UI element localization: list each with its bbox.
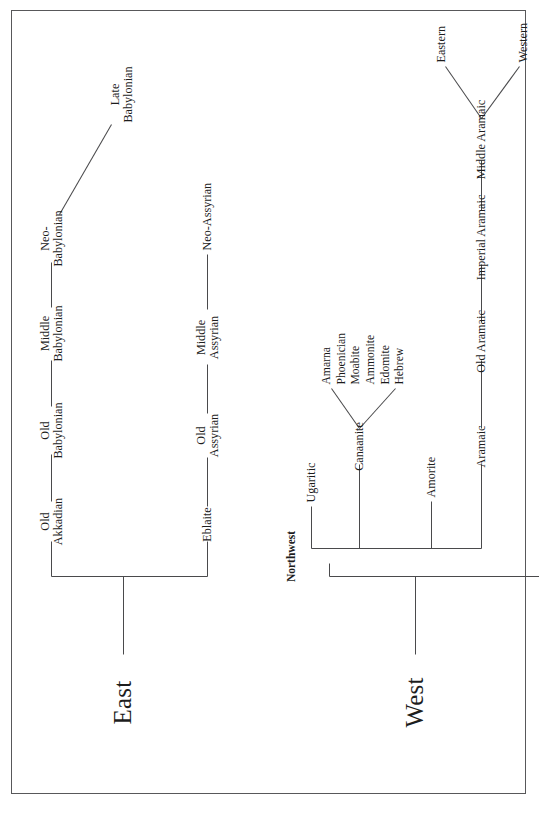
- node-middle-babylonian: Middle Babylonian: [38, 305, 64, 361]
- node-neo-assyrian: Neo-Assyrian: [201, 182, 214, 250]
- figure-page: East Old Akkadian Old Babylonian Middle …: [0, 0, 539, 823]
- node-old-aramaic: Old Aramaic: [475, 310, 488, 373]
- node-aramaic: Aramaic: [475, 425, 488, 467]
- node-ugaritic: Ugaritic: [305, 462, 318, 502]
- canaanite-member-list: Amarna Phoenician Moabite Ammonite Edomi…: [319, 332, 407, 384]
- language-tree-diagram: East Old Akkadian Old Babylonian Middle …: [11, 10, 526, 794]
- node-northwest: Northwest: [285, 530, 297, 581]
- node-western-aramaic: Western: [517, 22, 530, 62]
- node-old-akkadian: Old Akkadian: [38, 497, 64, 544]
- tree-connectors: [11, 10, 526, 794]
- node-middle-assyrian: Middle Assyrian: [194, 315, 220, 358]
- node-old-babylonian: Old Babylonian: [38, 402, 64, 458]
- node-middle-aramaic: Middle Aramaic: [475, 99, 488, 179]
- node-imperial-aramaic: Imperial Aramaic: [475, 194, 488, 280]
- node-amorite: Amorite: [425, 456, 438, 497]
- node-neo-babylonian: Neo- Babylonian: [38, 210, 64, 266]
- node-eblaite: Eblaite: [201, 507, 214, 542]
- node-late-babylonian: Late Babylonian: [108, 66, 134, 122]
- node-old-assyrian: Old Assyrian: [194, 413, 220, 456]
- figure-border: East Old Akkadian Old Babylonian Middle …: [11, 10, 526, 794]
- node-eastern-aramaic: Eastern: [435, 25, 448, 62]
- node-east: East: [110, 680, 137, 724]
- node-canaanite: Canaanite: [353, 422, 366, 471]
- node-west: West: [402, 677, 429, 727]
- link-neobab-latebab: [59, 124, 111, 214]
